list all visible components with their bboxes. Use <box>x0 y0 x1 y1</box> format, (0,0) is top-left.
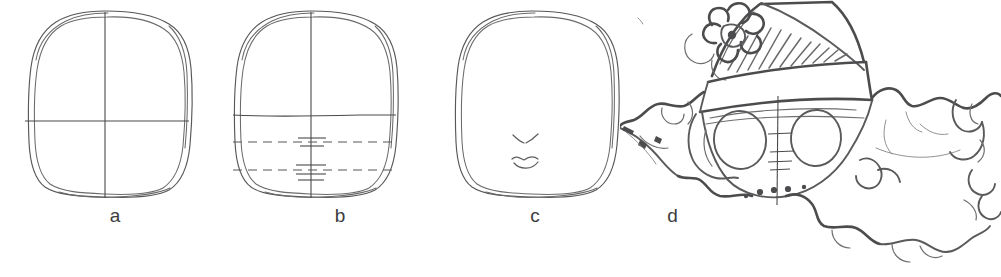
hat-band <box>700 62 872 112</box>
horizontal-eye-line-b <box>233 115 396 116</box>
face-d <box>702 101 872 197</box>
curly-hair-right <box>786 88 1001 262</box>
panel-caption-a: a <box>0 206 230 225</box>
head-outline-a <box>28 11 192 197</box>
hat-crown-hatched <box>712 2 864 76</box>
mouth-c <box>512 157 538 168</box>
panel-c: c <box>450 0 620 277</box>
nose-c <box>513 134 538 143</box>
hat-flower-icon <box>685 3 764 80</box>
panel-a: a <box>0 0 230 277</box>
panel-caption-d: d <box>482 206 863 225</box>
panel-caption-b: b <box>230 206 450 225</box>
figure-drawing-sequence: a b <box>0 0 1001 277</box>
panel-d: d <box>620 0 1001 277</box>
head-outline-c <box>455 11 619 197</box>
panel-b: b <box>230 0 450 277</box>
